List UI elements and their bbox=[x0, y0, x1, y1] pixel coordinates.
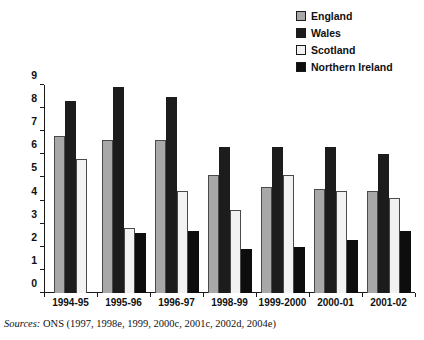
bar-england bbox=[102, 140, 113, 293]
y-axis-tick-label: 6 bbox=[31, 139, 37, 149]
source-note: Sources: ONS (1997, 1998e, 1999, 2000c, … bbox=[4, 318, 276, 330]
bar-northern bbox=[294, 247, 305, 293]
legend-swatch-england-icon bbox=[296, 11, 306, 21]
x-axis-tick bbox=[415, 293, 416, 297]
y-axis-tick-label: 7 bbox=[31, 116, 37, 126]
source-lead: Sources: bbox=[4, 318, 40, 329]
bar-england bbox=[367, 191, 378, 293]
bar-wales bbox=[378, 154, 389, 293]
legend-label-wales: Wales bbox=[311, 28, 341, 38]
source-text: ONS (1997, 1998e, 1999, 2000c, 2001c, 20… bbox=[40, 318, 276, 329]
y-axis-tick-label: 2 bbox=[31, 232, 37, 242]
bar-england bbox=[155, 140, 166, 293]
y-axis-tick-label: 1 bbox=[31, 255, 37, 265]
x-axis-label: 2000-01 bbox=[309, 297, 362, 308]
bar-wales bbox=[272, 147, 283, 293]
bar-wales bbox=[166, 97, 177, 293]
y-axis-tick-label: 5 bbox=[31, 162, 37, 172]
bar-england bbox=[54, 136, 65, 293]
y-axis-tick-label: 9 bbox=[31, 70, 37, 80]
legend-item-northern: Northern Ireland bbox=[296, 60, 393, 74]
bar-group bbox=[97, 85, 150, 293]
bar-group bbox=[44, 85, 97, 293]
plot-area: 0123456789 bbox=[44, 85, 415, 293]
bar-groups bbox=[44, 85, 415, 293]
bar-scotland bbox=[177, 191, 188, 293]
bar-northern bbox=[400, 231, 411, 293]
x-axis-label: 1996-97 bbox=[150, 297, 203, 308]
x-axis-label: 2001-02 bbox=[362, 297, 415, 308]
bar-northern bbox=[347, 240, 358, 293]
legend-item-wales: Wales bbox=[296, 26, 393, 40]
legend-swatch-northern-icon bbox=[296, 62, 306, 72]
bar-group bbox=[309, 85, 362, 293]
chart-legend: EnglandWalesScotlandNorthern Ireland bbox=[296, 9, 393, 74]
y-axis-tick-label: 0 bbox=[31, 278, 37, 288]
bar-group bbox=[256, 85, 309, 293]
legend-item-scotland: Scotland bbox=[296, 43, 393, 57]
cropped-header-text bbox=[0, 0, 424, 6]
bar-wales bbox=[219, 147, 230, 293]
bar-scotland bbox=[230, 210, 241, 293]
y-axis-tick-label: 8 bbox=[31, 93, 37, 103]
bar-scotland bbox=[283, 175, 294, 293]
bar-england bbox=[314, 189, 325, 293]
bar-england bbox=[208, 175, 219, 293]
legend-label-northern: Northern Ireland bbox=[311, 62, 393, 72]
bar-group bbox=[203, 85, 256, 293]
y-axis-tick-label: 4 bbox=[31, 186, 37, 196]
chart-figure: EnglandWalesScotlandNorthern Ireland 012… bbox=[0, 0, 424, 340]
bar-northern bbox=[188, 231, 199, 293]
bar-scotland bbox=[124, 228, 135, 293]
legend-label-scotland: Scotland bbox=[311, 45, 355, 55]
bar-northern bbox=[135, 233, 146, 293]
legend-item-england: England bbox=[296, 9, 393, 23]
x-axis-label: 1994-95 bbox=[44, 297, 97, 308]
x-axis-labels: 1994-951995-961996-971998-991999-2000200… bbox=[44, 297, 415, 308]
legend-label-england: England bbox=[311, 11, 352, 21]
bar-northern bbox=[241, 249, 252, 293]
y-axis-tick-label: 3 bbox=[31, 209, 37, 219]
bar-wales bbox=[65, 101, 76, 293]
legend-swatch-wales-icon bbox=[296, 28, 306, 38]
bar-scotland bbox=[389, 198, 400, 293]
bar-wales bbox=[325, 147, 336, 293]
bar-scotland bbox=[76, 159, 87, 293]
x-axis-label: 1999-2000 bbox=[256, 297, 309, 308]
bar-group bbox=[362, 85, 415, 293]
legend-swatch-scotland-icon bbox=[296, 45, 306, 55]
x-axis-label: 1995-96 bbox=[97, 297, 150, 308]
x-axis-label: 1998-99 bbox=[203, 297, 256, 308]
bar-england bbox=[261, 187, 272, 293]
bar-group bbox=[150, 85, 203, 293]
bar-wales bbox=[113, 87, 124, 293]
bar-scotland bbox=[336, 191, 347, 293]
